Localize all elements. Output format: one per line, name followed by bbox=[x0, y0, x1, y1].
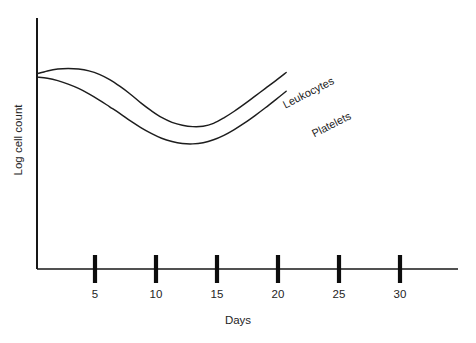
chart-canvas: 5 10 15 20 25 30 Days Log cell count Leu… bbox=[0, 0, 476, 343]
y-axis-title: Log cell count bbox=[12, 104, 24, 176]
x-axis-title: Days bbox=[225, 314, 251, 326]
x-tick-label-10: 10 bbox=[150, 288, 163, 300]
x-tick-label-15: 15 bbox=[211, 288, 224, 300]
x-tick-label-20: 20 bbox=[272, 288, 285, 300]
x-tick-label-25: 25 bbox=[333, 288, 346, 300]
x-tick-label-30: 30 bbox=[394, 288, 407, 300]
x-tick-label-5: 5 bbox=[92, 288, 98, 300]
